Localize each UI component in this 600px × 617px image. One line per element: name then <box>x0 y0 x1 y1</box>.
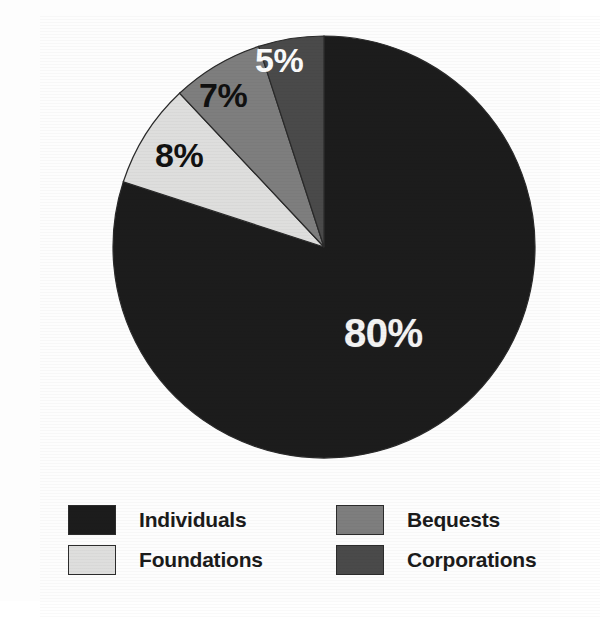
pie-chart-graphic <box>112 35 536 459</box>
legend-item-corporations: Corporations <box>336 543 576 577</box>
legend-label-foundations: Foundations <box>139 548 263 572</box>
pie-slices-group <box>113 36 535 458</box>
pie-chart-figure: 80% 8% 7% 5% Individuals Bequests Founda… <box>40 16 600 617</box>
legend-label-individuals: Individuals <box>139 508 247 532</box>
legend-item-bequests: Bequests <box>336 503 576 537</box>
legend-swatch-bequests <box>336 505 384 535</box>
legend-label-corporations: Corporations <box>407 548 536 572</box>
slice-value-label-individuals: 80% <box>344 313 423 353</box>
legend-item-foundations: Foundations <box>68 543 336 577</box>
slice-value-label-corporations: 5% <box>255 43 303 77</box>
legend-item-individuals: Individuals <box>68 503 336 537</box>
pie-svg <box>112 35 536 459</box>
chart-legend: Individuals Bequests Foundations Corpora… <box>68 500 576 580</box>
legend-swatch-individuals <box>68 505 116 535</box>
legend-swatch-corporations <box>336 545 384 575</box>
slice-value-label-bequests: 7% <box>199 78 247 112</box>
legend-swatch-foundations <box>68 545 116 575</box>
slice-value-label-foundations: 8% <box>155 138 203 172</box>
legend-label-bequests: Bequests <box>407 508 500 532</box>
